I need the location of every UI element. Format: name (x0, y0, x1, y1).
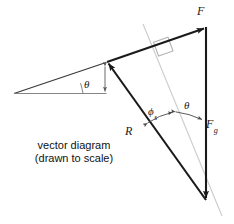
label-force-Fg-base: F (206, 117, 213, 131)
vector-R (109, 64, 207, 201)
vector-diagram-figure: F Fg R θ θ ϕs vector diagram (drawn to s… (0, 0, 234, 224)
figure-caption: vector diagram (drawn to scale) (14, 139, 134, 165)
label-force-F: F (197, 5, 204, 17)
theta-incline-arc (81, 83, 84, 93)
caption-line-2: (drawn to scale) (14, 152, 134, 165)
label-theta-right: θ (184, 100, 189, 111)
label-phi-base: ϕ (148, 105, 154, 117)
label-phi-subscript: s (154, 113, 157, 122)
label-theta-incline: θ (84, 79, 89, 90)
incline-upper-edge (14, 63, 106, 94)
label-resultant-R: R (125, 125, 132, 137)
label-force-Fg: Fg (206, 118, 217, 134)
label-phi-s: ϕs (148, 106, 157, 120)
label-force-Fg-subscript: g (214, 126, 218, 135)
vector-diagram-canvas (0, 0, 234, 224)
caption-line-1: vector diagram (14, 139, 134, 152)
vector-F (107, 29, 204, 63)
